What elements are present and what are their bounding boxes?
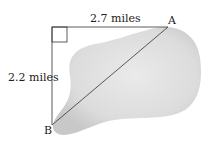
- right-angle-marker: [52, 27, 67, 42]
- top-distance-label: 2.7 miles: [90, 13, 141, 24]
- lake-shape: [53, 27, 201, 135]
- point-a-label: A: [168, 15, 176, 26]
- left-distance-label: 2.2 miles: [8, 72, 59, 83]
- point-b-label: B: [44, 125, 52, 136]
